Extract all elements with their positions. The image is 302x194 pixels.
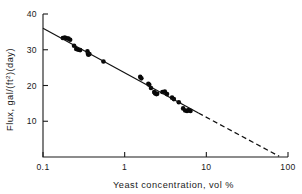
trend-line-extrapolated	[198, 113, 279, 156]
x-axis-label: Yeast concentration, vol %	[113, 180, 234, 190]
trend-line	[43, 28, 198, 113]
axis-spines	[43, 14, 288, 157]
y-tick-label: 40	[27, 9, 37, 19]
x-tick-label: 0.1	[36, 162, 49, 172]
data-point	[68, 37, 73, 42]
y-axis-label-text: Flux, gal/(ft2)(day)	[4, 48, 15, 131]
x-tick-label: 100	[280, 162, 296, 172]
y-axis-label-pre: Flux, gal/(ft	[5, 79, 15, 131]
y-tick-label: 20	[27, 81, 37, 91]
y-axis-label-post: )(day)	[5, 48, 15, 75]
flux-vs-yeast-concentration-chart: 102030400.1110100Yeast concentration, vo…	[0, 0, 302, 194]
y-axis-label: Flux, gal/(ft2)(day)	[4, 48, 15, 131]
y-tick-label: 10	[27, 116, 37, 126]
x-tick-label: 1	[122, 162, 127, 172]
data-point	[155, 91, 160, 96]
x-tick-label: 10	[201, 162, 211, 172]
data-point	[139, 76, 144, 81]
y-tick-label: 30	[27, 45, 37, 55]
chart-canvas: 102030400.1110100Yeast concentration, vo…	[0, 0, 302, 194]
